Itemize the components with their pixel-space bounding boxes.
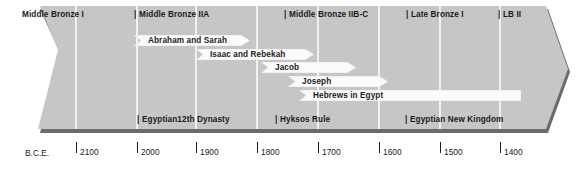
timeline-axis: B.C.E. 2100 2000 1900 1800 1700 1600 150… xyxy=(0,0,576,175)
axis-tick-1600 xyxy=(379,142,380,153)
axis-tick-1400 xyxy=(500,142,501,153)
axis-tick-label-1700: 1700 xyxy=(322,147,341,157)
axis-tick-label-2000: 2000 xyxy=(141,147,160,157)
axis-tick-2100 xyxy=(76,142,77,153)
axis-tick-1900 xyxy=(196,142,197,153)
axis-era-label: B.C.E. xyxy=(25,148,49,158)
timeline-figure: Middle Bronze I |Middle Bronze IIA |Midd… xyxy=(0,0,576,175)
axis-tick-1700 xyxy=(318,142,319,153)
axis-tick-label-1800: 1800 xyxy=(261,147,280,157)
axis-tick-label-1600: 1600 xyxy=(383,147,402,157)
axis-tick-label-1900: 1900 xyxy=(200,147,219,157)
axis-tick-label-2100: 2100 xyxy=(80,147,99,157)
axis-tick-1500 xyxy=(440,142,441,153)
axis-tick-1800 xyxy=(257,142,258,153)
axis-tick-label-1400: 1400 xyxy=(504,147,523,157)
axis-tick-label-1500: 1500 xyxy=(444,147,463,157)
axis-tick-2000 xyxy=(137,142,138,153)
